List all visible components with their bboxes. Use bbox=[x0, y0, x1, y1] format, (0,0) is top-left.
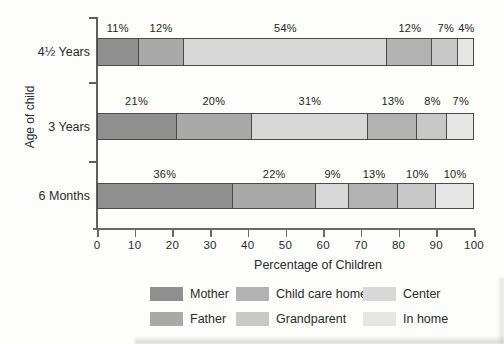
category-label-3-years: 3 Years bbox=[0, 120, 90, 134]
bar-segment-child-care-home bbox=[387, 39, 432, 65]
x-axis-tick-label: 70 bbox=[354, 239, 367, 251]
segment-value-label: 31% bbox=[299, 95, 322, 107]
x-axis-tick bbox=[286, 230, 288, 237]
bar-6-months bbox=[97, 183, 474, 209]
segment-value-label: 4% bbox=[458, 22, 475, 34]
segment-value-label: 12% bbox=[398, 22, 421, 34]
bar-4½-years bbox=[97, 38, 474, 66]
segment-value-label: 21% bbox=[125, 95, 148, 107]
legend-label: Child care home bbox=[276, 287, 367, 301]
bar-segment-child-care-home bbox=[349, 184, 398, 208]
scan-shadow-right bbox=[498, 278, 504, 344]
segment-value-label: 9% bbox=[324, 168, 341, 180]
y-axis-tick bbox=[89, 82, 97, 84]
legend-swatch-mother bbox=[150, 287, 183, 301]
bar-segment-in-home bbox=[458, 39, 473, 65]
legend-swatch-grandparent bbox=[236, 312, 269, 326]
legend-item-in-home: In home bbox=[363, 312, 448, 326]
bar-segment-mother bbox=[98, 114, 177, 139]
segment-value-label: 13% bbox=[381, 95, 404, 107]
bar-segment-mother bbox=[98, 184, 233, 208]
bar-segment-center bbox=[316, 184, 350, 208]
segment-value-label: 22% bbox=[263, 168, 286, 180]
bar-segment-in-home bbox=[436, 184, 474, 208]
segment-value-label: 54% bbox=[274, 22, 297, 34]
legend-swatch-child-care-home bbox=[236, 287, 269, 301]
x-axis-title: Percentage of Children bbox=[254, 258, 382, 272]
x-axis-tick-label: 100 bbox=[464, 239, 484, 251]
x-axis-tick-label: 0 bbox=[94, 239, 101, 251]
segment-value-label: 7% bbox=[453, 95, 470, 107]
bar-segment-in-home bbox=[447, 114, 473, 139]
x-axis-line bbox=[93, 228, 475, 230]
segment-value-label: 8% bbox=[424, 95, 441, 107]
legend-label: Father bbox=[190, 312, 226, 326]
bar-segment-mother bbox=[98, 39, 139, 65]
x-axis-tick-label: 20 bbox=[166, 239, 179, 251]
bar-3-years bbox=[97, 113, 474, 140]
legend-item-child-care-home: Child care home bbox=[236, 287, 367, 301]
bar-segment-child-care-home bbox=[368, 114, 417, 139]
x-axis-tick bbox=[474, 230, 476, 237]
x-axis-tick bbox=[135, 230, 137, 237]
scan-shadow-bottom bbox=[135, 337, 504, 344]
legend-swatch-in-home bbox=[363, 312, 396, 326]
x-axis-tick bbox=[399, 230, 401, 237]
segment-value-label: 10% bbox=[444, 168, 467, 180]
bar-segment-father bbox=[177, 114, 252, 139]
segment-value-label: 12% bbox=[150, 22, 173, 34]
x-axis-tick bbox=[210, 230, 212, 237]
legend-label: Mother bbox=[190, 287, 229, 301]
x-axis-tick bbox=[361, 230, 363, 237]
x-axis-tick bbox=[97, 230, 99, 237]
category-label-4½-years: 4½ Years bbox=[0, 45, 90, 59]
x-axis-tick bbox=[323, 230, 325, 237]
legend-label: Grandparent bbox=[276, 312, 346, 326]
segment-value-label: 13% bbox=[363, 168, 386, 180]
bar-segment-father bbox=[139, 39, 184, 65]
legend-item-father: Father bbox=[150, 312, 226, 326]
x-axis-tick-label: 80 bbox=[392, 239, 405, 251]
legend-item-center: Center bbox=[363, 287, 441, 301]
bar-segment-father bbox=[233, 184, 316, 208]
legend-label: Center bbox=[403, 287, 441, 301]
x-axis-tick-label: 60 bbox=[316, 239, 329, 251]
segment-value-label: 20% bbox=[202, 95, 225, 107]
segment-value-label: 10% bbox=[406, 168, 429, 180]
segment-value-label: 11% bbox=[107, 22, 129, 34]
bar-segment-center bbox=[252, 114, 368, 139]
legend-swatch-center bbox=[363, 287, 396, 301]
y-axis-tick bbox=[89, 17, 97, 19]
x-axis-tick-label: 40 bbox=[241, 239, 254, 251]
legend-label: In home bbox=[403, 312, 448, 326]
x-axis-tick-label: 30 bbox=[203, 239, 216, 251]
y-axis-title: Age of child bbox=[23, 86, 37, 149]
x-axis-tick-label: 10 bbox=[128, 239, 141, 251]
y-axis-tick bbox=[89, 161, 97, 163]
legend-item-mother: Mother bbox=[150, 287, 229, 301]
bar-segment-grandparent bbox=[417, 114, 447, 139]
x-axis-tick bbox=[172, 230, 174, 237]
segment-value-label: 36% bbox=[153, 168, 176, 180]
x-axis-tick bbox=[436, 230, 438, 237]
x-axis-tick-label: 90 bbox=[430, 239, 443, 251]
legend-swatch-father bbox=[150, 312, 183, 326]
segment-value-label: 7% bbox=[437, 22, 454, 34]
x-axis-tick-label: 50 bbox=[279, 239, 292, 251]
x-axis-tick bbox=[248, 230, 250, 237]
stacked-bar-chart-figure: Age of child Percentage of Children 4½ Y… bbox=[0, 0, 504, 344]
bar-segment-grandparent bbox=[398, 184, 436, 208]
category-label-6-months: 6 Months bbox=[0, 189, 90, 203]
bar-segment-center bbox=[184, 39, 387, 65]
bar-segment-grandparent bbox=[432, 39, 458, 65]
legend-item-grandparent: Grandparent bbox=[236, 312, 346, 326]
